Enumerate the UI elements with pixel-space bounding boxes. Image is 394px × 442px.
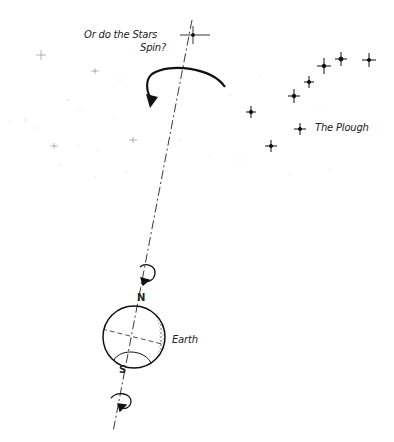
- north-rotation-arrow-icon: [140, 265, 155, 285]
- background-speckles: [9, 54, 330, 177]
- plough-label: The Plough: [315, 122, 369, 133]
- star-icon: [294, 123, 306, 135]
- star-icon: [304, 76, 314, 88]
- star-icon: [335, 52, 347, 66]
- faint-star: [36, 50, 137, 149]
- south-pole-label: S: [119, 364, 126, 375]
- pole-star-icon: [180, 26, 210, 44]
- star-icon: [246, 106, 256, 118]
- earth-label: Earth: [172, 334, 198, 345]
- star-icon: [288, 89, 300, 103]
- north-pole-label: N: [137, 292, 145, 303]
- star-icon: [265, 140, 277, 152]
- stars-spin-arrow-icon: [146, 68, 225, 108]
- diagram-canvas: Or do the Stars Spin? The Plough Earth N…: [0, 0, 394, 442]
- south-rotation-arrow-icon: [111, 394, 131, 411]
- stars-spin-label-line1: Or do the Stars: [84, 29, 157, 40]
- diagram-svg: [0, 0, 394, 442]
- star-icon: [362, 53, 376, 67]
- plough-constellation: [246, 52, 376, 152]
- stars-spin-label-line2: Spin?: [140, 42, 166, 53]
- star-icon: [317, 58, 331, 74]
